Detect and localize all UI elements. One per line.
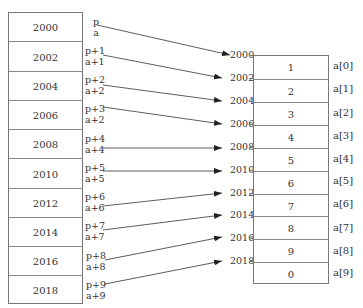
array-box: 1 2 3 4 5 6 7 8 9 0 bbox=[253, 55, 329, 284]
arrow-icon bbox=[105, 237, 222, 260]
array-cell: 5 bbox=[254, 148, 328, 172]
array-value: 4 bbox=[288, 132, 294, 143]
array-value: 5 bbox=[288, 155, 294, 166]
array-element-name: a[2] bbox=[333, 107, 353, 118]
array-value: 8 bbox=[288, 223, 294, 234]
array-cell: 4 bbox=[254, 125, 328, 149]
array-value: 9 bbox=[288, 246, 294, 257]
array-element-name: a[7] bbox=[333, 222, 353, 233]
array-element-name: a[5] bbox=[333, 175, 353, 186]
array-cell: 0 bbox=[254, 262, 328, 285]
array-cell: 9 bbox=[254, 239, 328, 263]
array-cell: 1 bbox=[254, 56, 328, 79]
array-element-name: a[8] bbox=[333, 245, 353, 256]
arrow-icon bbox=[97, 25, 230, 55]
array-value: 0 bbox=[288, 269, 294, 280]
array-value: 7 bbox=[288, 201, 294, 212]
array-value: 3 bbox=[288, 109, 294, 120]
array-cell: 7 bbox=[254, 194, 328, 217]
array-element-name: a[4] bbox=[333, 153, 353, 164]
array-cell: 3 bbox=[254, 102, 328, 126]
array-element-name: a[0] bbox=[333, 60, 353, 71]
array-cell: 2 bbox=[254, 79, 328, 103]
array-cell: 6 bbox=[254, 171, 328, 195]
array-value: 1 bbox=[288, 62, 294, 73]
arrow-icon bbox=[103, 193, 222, 206]
arrow-icon bbox=[103, 85, 222, 101]
arrow-icon bbox=[105, 261, 222, 284]
array-value: 6 bbox=[288, 178, 294, 189]
array-value: 2 bbox=[288, 86, 294, 97]
arrow-icon bbox=[103, 215, 222, 230]
array-cell: 8 bbox=[254, 216, 328, 240]
arrow-icon bbox=[103, 55, 222, 78]
array-element-name: a[6] bbox=[333, 198, 353, 209]
array-element-name: a[3] bbox=[333, 130, 353, 141]
array-element-name: a[1] bbox=[333, 83, 353, 94]
array-element-name: a[9] bbox=[333, 267, 353, 278]
arrow-icon bbox=[103, 107, 222, 124]
